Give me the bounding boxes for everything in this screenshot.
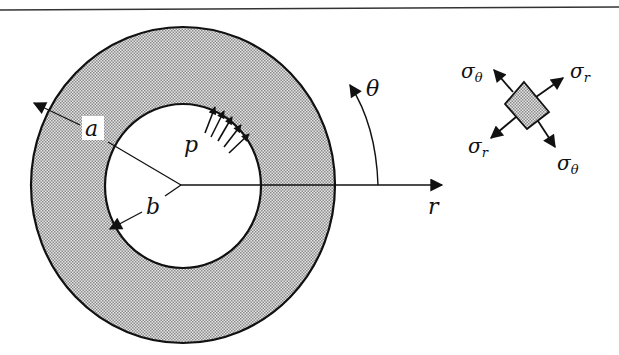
sigma-r-arrow-bottom-left xyxy=(491,117,516,138)
label-a: a xyxy=(85,116,98,141)
sigma-r-arrow-top-right xyxy=(536,78,563,97)
label-theta: θ xyxy=(366,76,379,101)
cylinder-diagram: a b p r θ σθ σr σr σθ xyxy=(0,0,619,355)
label-sigma-r-bottom-left: σr xyxy=(468,134,489,160)
label-sigma-theta-bottom-right: σθ xyxy=(557,151,579,177)
label-sigma-theta-top-left: σθ xyxy=(461,59,483,85)
label-sigma-r-top-right: σr xyxy=(570,59,591,85)
label-p: p xyxy=(184,132,198,157)
sigma-theta-arrow-top-left xyxy=(494,70,513,92)
top-rule xyxy=(0,7,619,10)
label-b: b xyxy=(146,194,160,219)
label-r: r xyxy=(428,194,440,219)
stress-element xyxy=(491,70,563,147)
sigma-theta-arrow-bottom-right xyxy=(538,121,555,147)
